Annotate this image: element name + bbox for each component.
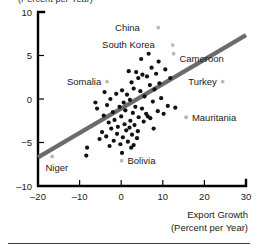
scatter-point	[97, 137, 101, 141]
scatter-point	[168, 76, 172, 80]
scatter-point	[102, 90, 106, 94]
x-tick-label: 10	[158, 191, 169, 202]
scatter-point	[149, 66, 153, 70]
scatter-point	[128, 98, 132, 102]
scatter-point	[142, 94, 146, 98]
highlighted-country-point	[171, 43, 175, 47]
scatter-point	[151, 100, 155, 104]
scatter-point	[95, 106, 99, 110]
scatter-point	[130, 133, 134, 137]
country-label: Bolivia	[127, 155, 156, 166]
scatter-point	[117, 105, 121, 109]
y-tick-label: −5	[21, 137, 32, 148]
scatter-point	[121, 135, 125, 139]
scatter-point	[120, 151, 124, 155]
x-axis-tick-labels: –20 –10 0 10 20 30	[30, 191, 251, 202]
scatter-point	[102, 113, 106, 117]
scatter-point	[154, 72, 158, 76]
highlighted-country-point	[221, 80, 225, 84]
scatter-point	[137, 115, 141, 119]
scatter-point	[139, 57, 143, 61]
highlighted-country-point	[105, 80, 109, 84]
scatter-point	[146, 114, 150, 118]
scatter-point	[124, 128, 128, 132]
x-axis-title-line1: Export Growth	[187, 209, 248, 220]
chart-figure: (Percent per Year) 10 5 0 −5 –10 –2	[0, 0, 258, 251]
x-tick-label: –10	[72, 191, 88, 202]
scatter-point	[148, 83, 152, 87]
scatter-point	[85, 146, 89, 150]
scatter-point	[157, 81, 161, 85]
y-axis-tick-labels: 10 5 0 −5 –10	[16, 7, 32, 192]
scatter-point	[145, 74, 149, 78]
scatter-point	[129, 146, 133, 150]
x-axis-title-line2: (Percent per Year)	[171, 222, 248, 233]
scatter-point	[112, 118, 116, 122]
scatter-point	[136, 129, 140, 133]
scatter-point	[125, 93, 129, 97]
scatter-point	[100, 130, 104, 134]
scatter-point	[162, 112, 166, 116]
country-label: Niger	[45, 162, 68, 173]
country-label: China	[115, 22, 141, 33]
scatter-point	[112, 139, 116, 143]
scatter-point	[140, 73, 144, 77]
country-label: Cameroon	[179, 53, 223, 64]
highlighted-country-point	[156, 26, 160, 30]
y-tick-label: 10	[21, 7, 32, 18]
scatter-point	[127, 69, 131, 73]
x-axis-title: Export Growth (Percent per Year)	[171, 209, 248, 233]
scatter-point	[108, 97, 112, 101]
scatter-point	[152, 126, 156, 130]
scatter-point	[163, 67, 167, 71]
scatter-point	[93, 100, 97, 104]
scatter-point	[111, 110, 115, 114]
scatter-point	[104, 134, 108, 138]
scatter-point	[138, 89, 142, 93]
scatter-point	[152, 87, 156, 91]
scatter-point	[126, 140, 130, 144]
scatter-point	[134, 70, 138, 74]
scatter-point	[105, 103, 109, 107]
country-label: Mauritania	[192, 112, 237, 123]
x-tick-label: 20	[199, 191, 210, 202]
highlighted-country-point	[184, 115, 188, 119]
y-tick-label: 5	[27, 50, 32, 61]
scatter-plot-svg: 10 5 0 −5 –10 –20 –10 0 10 20 30 Export …	[0, 0, 258, 251]
scatter-point	[132, 123, 136, 127]
x-tick-label: 30	[241, 191, 252, 202]
x-tick-label: 0	[119, 191, 124, 202]
country-label: Somalia	[67, 76, 102, 87]
scatter-point	[84, 153, 88, 157]
scatter-point	[127, 126, 131, 130]
x-tick-label: –20	[30, 191, 46, 202]
scatter-point	[122, 122, 126, 126]
scatter-point	[114, 92, 118, 96]
scatter-point	[122, 100, 126, 104]
footer-divider	[8, 243, 250, 244]
highlighted-country-point	[172, 52, 176, 56]
scatter-point	[131, 111, 135, 115]
scatter-point	[140, 106, 144, 110]
scatter-point	[120, 88, 124, 92]
scatter-point	[132, 86, 136, 90]
scatter-point	[123, 108, 127, 112]
country-label: Turkey	[188, 76, 217, 87]
scatter-point	[159, 96, 163, 100]
scatter-point	[107, 144, 111, 148]
scatter-point	[157, 59, 161, 63]
scatter-point	[109, 126, 113, 130]
scatter-point	[166, 104, 170, 108]
scatter-point	[136, 76, 140, 80]
country-label: South Korea	[102, 39, 156, 50]
y-tick-label: 0	[27, 94, 32, 105]
scatter-point	[135, 136, 139, 140]
scatter-point	[147, 52, 151, 56]
scatter-point	[133, 105, 137, 109]
scatter-point	[116, 125, 120, 129]
scatter-point	[128, 119, 132, 123]
scatter-point	[115, 132, 119, 136]
scatter-point	[142, 120, 146, 124]
scatter-point	[173, 106, 177, 110]
scatter-point	[107, 120, 111, 124]
